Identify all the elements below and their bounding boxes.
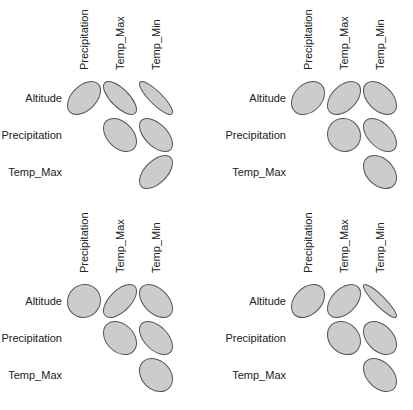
- ellipse-altitude-temp-max: [321, 75, 366, 120]
- ellipse-altitude-temp-min: [357, 75, 402, 120]
- row-label-precipitation: Precipitation: [1, 129, 62, 141]
- panel-1: PrecipitationTemp_MaxTemp_MinAltitudePre…: [1, 9, 178, 194]
- ellipse-precipitation-temp-max: [97, 315, 143, 361]
- row-label-precipitation: Precipitation: [225, 129, 286, 141]
- ellipse-altitude-temp-min: [360, 281, 400, 321]
- ellipse-precipitation-temp-min: [357, 112, 402, 157]
- ellipse-altitude-precipitation: [61, 75, 106, 120]
- ellipse-temp-max-temp-min: [357, 352, 403, 398]
- ellipse-altitude-precipitation: [61, 278, 108, 325]
- row-label-temp-max: Temp_Max: [232, 369, 286, 381]
- ellipse-temp-max-temp-min: [357, 149, 403, 195]
- row-label-temp-max: Temp_Max: [232, 166, 286, 178]
- row-label-temp-max: Temp_Max: [8, 369, 62, 381]
- ellipse-precipitation-temp-min: [357, 315, 403, 361]
- panel-3: PrecipitationTemp_MaxTemp_MinAltitudePre…: [1, 212, 179, 398]
- ellipse-altitude-temp-max: [98, 279, 142, 323]
- panel-4: PrecipitationTemp_MaxTemp_MinAltitudePre…: [225, 212, 402, 397]
- col-label-temp-max: Temp_Max: [338, 16, 350, 70]
- col-label-temp-min: Temp_Min: [150, 19, 162, 70]
- col-label-precipitation: Precipitation: [78, 212, 90, 273]
- correlation-ellipse-matrices: PrecipitationTemp_MaxTemp_MinAltitudePre…: [0, 0, 413, 410]
- row-label-altitude: Altitude: [249, 295, 286, 307]
- ellipse-temp-max-temp-min: [133, 352, 179, 398]
- row-label-altitude: Altitude: [25, 295, 62, 307]
- row-label-precipitation: Precipitation: [225, 332, 286, 344]
- ellipse-altitude-temp-min: [133, 278, 178, 323]
- ellipse-altitude-precipitation: [285, 278, 331, 324]
- col-label-precipitation: Precipitation: [302, 212, 314, 273]
- panel-2: PrecipitationTemp_MaxTemp_MinAltitudePre…: [225, 9, 403, 195]
- ellipse-precipitation-temp-max: [321, 315, 367, 361]
- ellipse-altitude-temp-max: [321, 278, 366, 323]
- ellipse-precipitation-temp-min: [133, 315, 178, 360]
- col-label-temp-min: Temp_Min: [374, 19, 386, 70]
- ellipse-altitude-temp-max: [98, 76, 141, 119]
- ellipse-altitude-temp-min: [136, 78, 177, 119]
- col-label-temp-max: Temp_Max: [114, 16, 126, 70]
- col-label-precipitation: Precipitation: [78, 9, 90, 70]
- col-label-temp-min: Temp_Min: [150, 222, 162, 273]
- col-label-precipitation: Precipitation: [302, 9, 314, 70]
- col-label-temp-max: Temp_Max: [114, 219, 126, 273]
- row-label-altitude: Altitude: [249, 92, 286, 104]
- ellipse-precipitation-temp-min: [134, 113, 179, 158]
- ellipse-precipitation-temp-max: [97, 112, 143, 158]
- ellipse-temp-max-temp-min: [134, 150, 179, 195]
- col-label-temp-max: Temp_Max: [338, 219, 350, 273]
- row-label-precipitation: Precipitation: [1, 332, 62, 344]
- col-label-temp-min: Temp_Min: [374, 222, 386, 273]
- ellipse-altitude-precipitation: [285, 75, 331, 121]
- row-label-altitude: Altitude: [25, 92, 62, 104]
- ellipse-precipitation-temp-max: [321, 112, 368, 159]
- row-label-temp-max: Temp_Max: [8, 166, 62, 178]
